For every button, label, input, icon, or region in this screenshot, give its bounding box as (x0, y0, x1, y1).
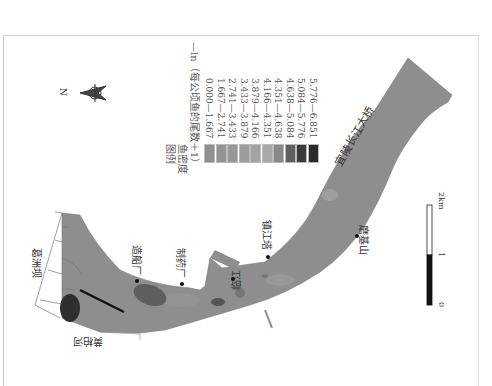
creek (265, 310, 272, 328)
bank-outline (100, 332, 140, 340)
legend-title: 图例 (165, 144, 176, 164)
scale-bar-black (427, 255, 432, 305)
label-port: 临江 (228, 270, 243, 290)
legend-swatch (204, 144, 215, 163)
high-density-patch (60, 294, 80, 322)
legend-swatch (216, 144, 227, 163)
low-density-patch (322, 189, 338, 201)
scale-tick-1: 1 (437, 252, 446, 257)
scale-tick-2km: 2km (437, 192, 446, 210)
legend-swatch (273, 144, 284, 163)
legend-range-label: 4.351—4.638 (272, 78, 283, 139)
marker-shipyard (135, 279, 139, 283)
legend-swatch (308, 144, 319, 163)
legend-swatch (250, 144, 261, 163)
legend-range-label: 2.741—3.433 (226, 78, 237, 139)
scale-bar-white (427, 205, 432, 255)
legend-range-label: 3.879—4.166 (249, 78, 260, 139)
compass-icon (80, 84, 106, 102)
legend-range-label: 0.000—1.667 (203, 78, 214, 139)
legend-swatch (285, 144, 296, 163)
label-tower: 镇江塔 (260, 220, 275, 250)
scale-tick-0: 0 (437, 302, 446, 307)
legend-range-label: 3.433—3.879 (238, 78, 249, 139)
high-density-patch (262, 274, 268, 278)
marker-pharma (180, 282, 184, 286)
legend-swatch (296, 144, 307, 163)
legend-swatch (262, 144, 273, 163)
legend-range-label: 4.638—5.084 (284, 78, 295, 139)
label-gezhouba: 葛洲坝 (30, 248, 45, 278)
legend-range-label: 5.084—5.776 (295, 78, 306, 139)
label-pharma: 制药厂 (174, 248, 189, 278)
legend-range-label: 5.776—6.851 (307, 78, 318, 139)
compass-north-label: N (58, 88, 68, 96)
legend-unit: —ln（每公顷鱼的尾数＋1） (189, 42, 200, 168)
high-density-patch (211, 298, 225, 306)
legend-subtitle: 鱼密度 (177, 144, 188, 174)
legend-swatch (239, 144, 250, 163)
label-mountain: 磨基山 (357, 225, 372, 255)
label-tributary: 黄柏河 (73, 335, 103, 350)
legend-range-label: 4.166—4.351 (261, 78, 272, 139)
low-density-patch (266, 274, 294, 286)
marker-tower (266, 255, 270, 259)
legend-range-label: 1.667—2.741 (215, 78, 226, 139)
legend-swatch (227, 144, 238, 163)
label-shipyard: 造船厂 (130, 245, 145, 275)
